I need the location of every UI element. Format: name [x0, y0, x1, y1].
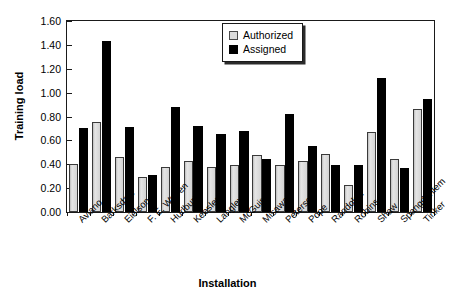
y-axis-tick-label: 1.60 — [27, 15, 61, 27]
y-axis-tick-label: 0.00 — [27, 206, 61, 218]
bar-group — [365, 21, 388, 212]
legend-label-assigned: Assigned — [243, 43, 286, 55]
y-axis-tick-label: 0.40 — [27, 158, 61, 170]
bar-assigned — [377, 78, 386, 212]
y-axis-tick-label: 1.00 — [27, 87, 61, 99]
y-axis-tick-label: 1.20 — [27, 63, 61, 75]
x-axis-title: Installation — [0, 277, 455, 289]
bar-group — [388, 21, 411, 212]
y-axis-tick-label: 0.80 — [27, 111, 61, 123]
legend-item-assigned: Assigned — [229, 42, 293, 56]
bar-assigned — [331, 165, 340, 212]
y-axis-tick-label: 0.20 — [27, 182, 61, 194]
bar-group — [90, 21, 113, 212]
legend-swatch-assigned — [229, 45, 238, 54]
y-axis-title: Training load — [13, 56, 25, 156]
training-load-bar-chart: Training load Authorized Assigned Instal… — [0, 0, 455, 297]
bar-group — [136, 21, 159, 212]
bar-assigned — [79, 128, 88, 212]
legend-swatch-authorized — [229, 31, 238, 40]
chart-legend: Authorized Assigned — [222, 23, 303, 62]
legend-item-authorized: Authorized — [229, 28, 293, 42]
bar-group — [113, 21, 136, 212]
legend-label-authorized: Authorized — [243, 29, 293, 41]
bar-group — [67, 21, 90, 212]
y-axis-tick-label: 0.60 — [27, 134, 61, 146]
y-axis-tick-label: 1.40 — [27, 39, 61, 51]
bar-authorized — [69, 164, 78, 212]
bar-group — [342, 21, 365, 212]
bar-group — [319, 21, 342, 212]
x-axis-tick-mark — [67, 212, 68, 216]
bar-assigned — [102, 41, 111, 212]
